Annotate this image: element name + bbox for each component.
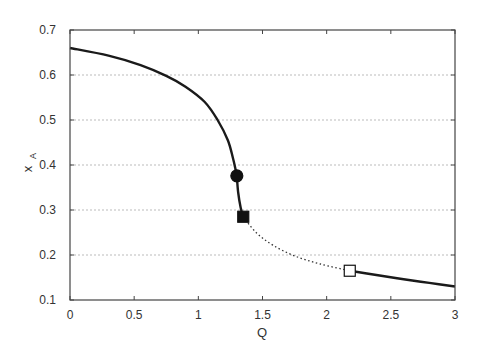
series-line bbox=[70, 48, 237, 176]
y-tick-label: 0.2 bbox=[39, 248, 56, 262]
x-tick-label: 1 bbox=[195, 308, 202, 322]
gridlines bbox=[70, 75, 455, 255]
y-axis-label: x A bbox=[20, 153, 38, 172]
y-axis-label-main: x bbox=[20, 165, 35, 172]
x-axis-label: Q bbox=[257, 325, 267, 340]
data-series bbox=[70, 48, 455, 287]
x-tick-label: 1.5 bbox=[254, 308, 271, 322]
y-tick-label: 0.1 bbox=[39, 293, 56, 307]
y-tick-label: 0.7 bbox=[39, 23, 56, 37]
x-tick-label: 0 bbox=[67, 308, 74, 322]
y-tick-label: 0.5 bbox=[39, 113, 56, 127]
bifurcation-chart: 0.10.20.30.40.50.60.700.511.522.53 Q x A bbox=[0, 0, 482, 354]
x-tick-label: 2.5 bbox=[382, 308, 399, 322]
markers bbox=[231, 170, 355, 276]
y-tick-label: 0.3 bbox=[39, 203, 56, 217]
y-axis-label-subscript: A bbox=[28, 153, 38, 159]
filled-square-marker bbox=[238, 211, 249, 222]
series-line bbox=[243, 217, 350, 271]
x-tick-label: 2 bbox=[323, 308, 330, 322]
series-line bbox=[350, 271, 455, 287]
y-tick-label: 0.6 bbox=[39, 68, 56, 82]
x-tick-label: 3 bbox=[452, 308, 459, 322]
y-tick-label: 0.4 bbox=[39, 158, 56, 172]
filled-circle-marker bbox=[231, 170, 243, 182]
open-square-marker bbox=[344, 265, 355, 276]
x-tick-label: 0.5 bbox=[126, 308, 143, 322]
